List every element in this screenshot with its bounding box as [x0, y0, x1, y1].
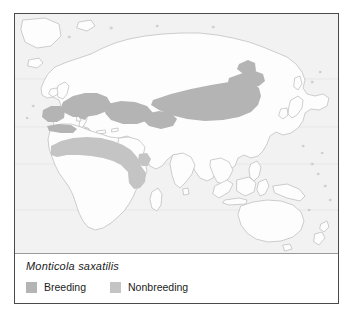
breeding-label: Breeding [44, 281, 86, 293]
breeding-swatch [26, 282, 37, 293]
sri-lanka [183, 188, 189, 195]
legend-entry-breeding: Breeding [26, 281, 86, 293]
range-map-figure: Monticola saxatilis Breeding Nonbreeding [14, 13, 339, 304]
legend-panel: Monticola saxatilis Breeding Nonbreeding [15, 253, 338, 303]
world-map [15, 14, 338, 253]
map-panel [15, 14, 338, 253]
species-name: Monticola saxatilis [26, 260, 119, 272]
legend-entries: Breeding Nonbreeding [26, 281, 188, 293]
nonbreeding-swatch [110, 282, 121, 293]
breeding-baikal-connector [244, 71, 251, 81]
nonbreeding-label: Nonbreeding [128, 281, 188, 293]
legend-entry-nonbreeding: Nonbreeding [110, 281, 188, 293]
cyprus [112, 128, 118, 132]
